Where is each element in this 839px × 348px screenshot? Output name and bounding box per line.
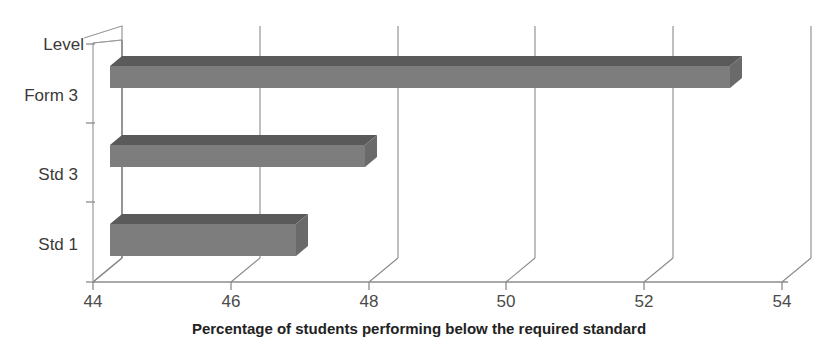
x-axis-ticks	[93, 282, 782, 290]
y-axis-title: Level	[43, 35, 84, 54]
bar-std-3[interactable]	[110, 135, 377, 167]
bar-chart: 44 46 48 50 52 54 Form 3 Std 3 Std 1 Lev…	[0, 0, 839, 348]
x-tick-label: 44	[84, 292, 103, 311]
y-tick-label-std-1: Std 1	[38, 235, 78, 254]
y-tick-label-std-3: Std 3	[38, 165, 78, 184]
y-tick-labels: Form 3 Std 3 Std 1	[24, 86, 78, 254]
x-tick-label: 46	[222, 292, 241, 311]
chart-canvas: 44 46 48 50 52 54 Form 3 Std 3 Std 1 Lev…	[0, 0, 839, 348]
bar-form-3[interactable]	[110, 56, 742, 88]
bar-std-1[interactable]	[110, 214, 308, 256]
x-axis-title: Percentage of students performing below …	[192, 320, 646, 337]
x-tick-label: 54	[773, 292, 792, 311]
y-axis-ticks	[86, 44, 95, 282]
y-tick-label-form-3: Form 3	[24, 86, 78, 105]
x-tick-label: 52	[635, 292, 654, 311]
x-tick-label: 50	[497, 292, 516, 311]
x-tick-label: 48	[360, 292, 379, 311]
x-tick-labels: 44 46 48 50 52 54	[84, 292, 792, 311]
